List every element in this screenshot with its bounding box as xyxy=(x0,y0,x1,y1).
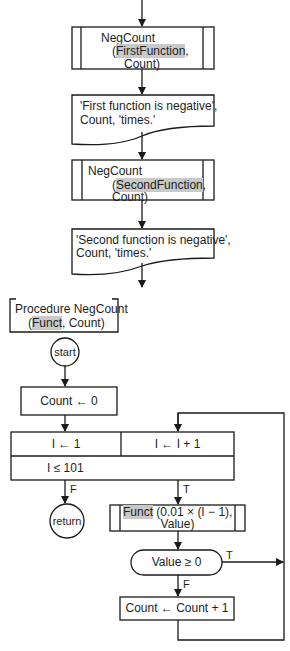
start-terminal: start xyxy=(51,345,79,360)
comma: , xyxy=(185,44,188,58)
call-2-line3: Count) xyxy=(112,190,148,205)
output-1-line2: Count, 'times.' xyxy=(80,113,155,128)
output-2-line2: Count, 'times.' xyxy=(76,246,151,261)
funct-call-line2: Value) xyxy=(110,517,245,532)
call-2-line1: NegCount xyxy=(88,164,142,179)
loop-condition: I ≤ 101 xyxy=(47,461,84,476)
procedure-header-line1: Procedure NegCount xyxy=(15,302,128,317)
output-1-line1: 'First function is negative', xyxy=(80,99,217,114)
highlighted-parameter: Funct xyxy=(32,316,62,330)
true-label: T xyxy=(183,483,190,495)
highlighted-argument: FirstFunction xyxy=(116,44,185,58)
procedure-header-line2: (Funct, Count) xyxy=(28,316,105,331)
params-rest: , Count) xyxy=(62,316,105,330)
decision-false-label: F xyxy=(183,578,190,590)
init-count: Count ← 0 xyxy=(21,394,117,409)
increment-count: Count ← Count + 1 xyxy=(120,601,234,616)
loop-init: I ← 1 xyxy=(11,437,121,452)
comma: , xyxy=(203,178,206,192)
loop-step: I ← I + 1 xyxy=(121,437,234,452)
call-1-line3: Count) xyxy=(124,57,160,72)
false-label: F xyxy=(70,483,77,495)
decision-value: Value ≥ 0 xyxy=(131,555,222,570)
return-terminal: return xyxy=(49,514,85,529)
decision-true-label: T xyxy=(226,549,233,561)
